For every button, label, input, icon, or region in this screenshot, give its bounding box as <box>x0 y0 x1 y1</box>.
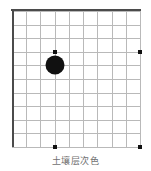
grid-line-horizontal <box>12 147 140 148</box>
axis-left-spine <box>12 9 14 147</box>
grid-line-horizontal <box>12 25 140 26</box>
data-point-square <box>138 50 142 54</box>
grid-plot-area <box>12 11 140 147</box>
grid-line-vertical <box>140 11 141 147</box>
grid-line-horizontal <box>12 79 140 80</box>
data-point-square <box>53 145 57 149</box>
data-point-circle <box>45 56 64 75</box>
grid-line-horizontal <box>12 52 140 53</box>
grid-line-horizontal <box>12 120 140 121</box>
grid-line-horizontal <box>12 65 140 66</box>
axis-top-spine <box>11 9 141 11</box>
figure-caption: 土壤层次色 <box>0 156 151 167</box>
figure-root: 土壤层次色 <box>0 0 151 171</box>
grid-line-horizontal <box>12 11 140 12</box>
grid-line-horizontal <box>12 106 140 107</box>
grid-line-horizontal <box>12 133 140 134</box>
data-point-square <box>138 145 142 149</box>
grid-line-horizontal <box>12 38 140 39</box>
grid-line-horizontal <box>12 93 140 94</box>
data-point-square <box>53 50 57 54</box>
